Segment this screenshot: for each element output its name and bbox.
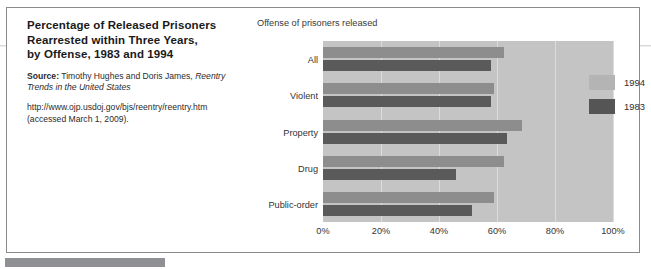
legend-label-1983: 1983 (624, 101, 645, 112)
gridline (497, 41, 498, 222)
x-tick-label: 20% (372, 226, 390, 236)
bar-public-order-1994 (323, 192, 494, 203)
source-label: Source: (27, 71, 59, 81)
figure-title-line-2: Rearrested within Three Years, (27, 34, 198, 46)
bar-all-1994 (323, 47, 504, 58)
figure-title-line-1: Percentage of Released Prisoners (27, 19, 216, 31)
bar-drug-1994 (323, 156, 504, 167)
figure-title: Percentage of Released Prisoners Rearres… (27, 18, 232, 62)
bar-chart: Offense of prisoners released AllViolent… (254, 18, 629, 248)
gridline (613, 41, 614, 222)
x-tick-label: 0% (316, 226, 329, 236)
x-tick-label: 40% (430, 226, 448, 236)
source-accessed: (accessed March 1, 2009). (27, 114, 129, 124)
source-note: Source: Timothy Hughes and Doris James, … (27, 71, 232, 94)
bar-violent-1983 (323, 96, 491, 107)
bar-drug-1983 (323, 169, 456, 180)
source-url[interactable]: http://www.ojp.usdoj.gov/bjs/reentry/ree… (27, 102, 207, 112)
legend-item-1983[interactable]: 1983 (589, 98, 651, 115)
category-label-all: All (308, 55, 318, 65)
category-label-violent: Violent (290, 91, 318, 101)
source-authors: Timothy Hughes and Doris James, (59, 71, 195, 81)
x-tick-label: 100% (601, 226, 625, 236)
legend-item-1994[interactable]: 1994 (589, 74, 651, 91)
figure-panel: Percentage of Released Prisoners Rearres… (6, 7, 640, 253)
category-axis-labels: AllViolentPropertyDrugPublic-order (254, 41, 318, 222)
figure-caption: Percentage of Released Prisoners Rearres… (27, 18, 232, 125)
plot-area: 19941983 (323, 41, 613, 222)
legend-swatch-1994 (589, 75, 615, 90)
category-label-public-order: Public-order (268, 200, 318, 210)
bar-public-order-1983 (323, 205, 472, 216)
bar-all-1983 (323, 60, 491, 71)
source-url-block: http://www.ojp.usdoj.gov/bjs/reentry/ree… (27, 102, 232, 125)
chart-title: Offense of prisoners released (257, 18, 629, 28)
x-tick-label: 60% (488, 226, 506, 236)
category-label-drug: Drug (298, 164, 318, 174)
gridline (555, 41, 556, 222)
chart-legend: 19941983 (589, 74, 651, 122)
figure-title-line-3: by Offense, 1983 and 1994 (27, 48, 173, 60)
legend-swatch-1983 (589, 99, 615, 114)
bar-property-1983 (323, 133, 507, 144)
bar-violent-1994 (323, 83, 494, 94)
page-footer-block (5, 258, 165, 267)
legend-label-1994: 1994 (624, 77, 645, 88)
x-axis-ticks: 0%20%40%60%80%100% (323, 226, 613, 240)
x-tick-label: 80% (546, 226, 564, 236)
bar-property-1994 (323, 120, 522, 131)
category-label-property: Property (283, 128, 318, 138)
